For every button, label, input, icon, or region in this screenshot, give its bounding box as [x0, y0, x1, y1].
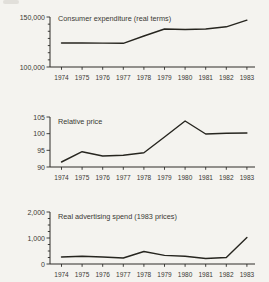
x-tick-label-1975: 1975 [75, 271, 90, 278]
x-tick-label-1978: 1978 [137, 74, 152, 81]
chart-title-3: Real advertising spend (1983 prices) [58, 212, 177, 221]
x-tick-label-1976: 1976 [95, 74, 110, 81]
charts-canvas: 150,000100,00019741975197619771978197919… [0, 0, 269, 282]
chart-title-1: Consumer expenditure (real terms) [58, 14, 171, 23]
data-series-line-chart-2 [62, 121, 247, 162]
x-tick-label-1978: 1978 [137, 271, 152, 278]
x-tick-label-1982: 1982 [219, 74, 234, 81]
x-tick-label-1979: 1979 [157, 271, 172, 278]
y-tick-label: 1,000 [27, 235, 45, 242]
y-tick-label: 90 [37, 164, 45, 171]
x-tick-label-1981: 1981 [198, 74, 213, 81]
x-tick-label-1980: 1980 [178, 271, 193, 278]
x-tick-label-1977: 1977 [116, 74, 131, 81]
x-tick-label-1983: 1983 [240, 271, 255, 278]
x-tick-label-1983: 1983 [240, 174, 255, 181]
y-tick-label: 0 [41, 261, 45, 268]
x-tick-label-1974: 1974 [54, 271, 69, 278]
x-tick-label-1974: 1974 [54, 74, 69, 81]
x-tick-label-1981: 1981 [198, 271, 213, 278]
data-series-line-chart-1 [62, 20, 247, 43]
y-tick-label: 105 [33, 114, 45, 121]
x-tick-label-1982: 1982 [219, 174, 234, 181]
x-tick-label-1975: 1975 [75, 74, 90, 81]
x-tick-label-1979: 1979 [157, 74, 172, 81]
x-tick-label-1974: 1974 [54, 174, 69, 181]
y-tick-label: 95 [37, 147, 45, 154]
three-panel-line-chart-figure: 150,000100,00019741975197619771978197919… [0, 0, 269, 282]
y-tick-label: 150,000 [20, 14, 45, 21]
x-tick-label-1978: 1978 [137, 174, 152, 181]
x-tick-label-1976: 1976 [95, 174, 110, 181]
chart-title-2: Relative price [58, 117, 102, 126]
x-tick-label-1975: 1975 [75, 174, 90, 181]
y-tick-label: 100 [33, 130, 45, 137]
x-tick-label-1981: 1981 [198, 174, 213, 181]
x-tick-label-1983: 1983 [240, 74, 255, 81]
x-tick-label-1980: 1980 [178, 174, 193, 181]
x-tick-label-1977: 1977 [116, 174, 131, 181]
y-tick-label: 100,000 [20, 64, 45, 71]
y-tick-label: 2,000 [27, 209, 45, 216]
x-tick-label-1980: 1980 [178, 74, 193, 81]
data-series-line-chart-3 [62, 238, 247, 259]
x-tick-label-1979: 1979 [157, 174, 172, 181]
x-tick-label-1977: 1977 [116, 271, 131, 278]
x-tick-label-1976: 1976 [95, 271, 110, 278]
x-tick-label-1982: 1982 [219, 271, 234, 278]
